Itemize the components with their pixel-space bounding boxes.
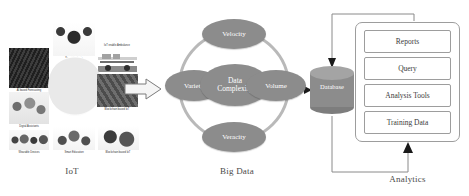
- analytics-item-training-data[interactable]: Training Data: [364, 111, 451, 134]
- digital-assistants-image: [9, 92, 49, 124]
- ai-forecasting-image: [9, 48, 49, 88]
- section-label-bigdata: Big Data: [178, 166, 296, 176]
- iot-image-cluster: AI based Forecasting Smart Gadgets IoT e…: [8, 16, 136, 158]
- iot-tile-caption: Blockchain based IoT: [105, 108, 130, 111]
- iot-tile-smart-education: Smart Education: [52, 126, 96, 154]
- drone-image: [53, 22, 95, 56]
- globe-image: [48, 56, 102, 116]
- iot-tile-caption: Blockchain based IoT: [106, 151, 131, 154]
- cylinder-top: [310, 66, 354, 80]
- analytics-item-analysis-tools[interactable]: Analysis Tools: [364, 84, 451, 107]
- iot-tile-smart-logistics: Blockchain based IoT: [97, 126, 139, 154]
- iot-tile-globe-connectivity: [48, 56, 102, 116]
- iot-tile-iot-enable-ambulance: IoT enable Ambulance: [97, 44, 137, 72]
- analytics-item-query[interactable]: Query: [364, 57, 451, 80]
- iot-tile-caption: Digital Assistants: [19, 125, 39, 128]
- bigdata-node-velocity: Velocity: [202, 19, 266, 49]
- bigdata-node-volume: Volume: [246, 70, 306, 101]
- iot-tile-digital-assistants: Digital Assistants: [8, 92, 50, 128]
- analytics-item-reports[interactable]: Reports: [364, 30, 451, 53]
- logistics-image: [98, 126, 139, 150]
- iot-to-bigdata-arrow-icon: [124, 78, 162, 100]
- analytics-panel: Reports Query Analysis Tools Training Da…: [355, 22, 460, 142]
- iot-tile-ai-based-forecasting: AI based Forecasting: [8, 48, 50, 92]
- iot-tile-caption: Smart Education: [64, 151, 83, 154]
- iot-tile-caption: Wearable Devices: [19, 151, 40, 154]
- diagram-canvas: AI based Forecasting Smart Gadgets IoT e…: [0, 0, 469, 196]
- section-label-iot: IoT: [30, 166, 114, 176]
- wearables-image: [9, 130, 49, 150]
- database-cylinder: Database: [310, 66, 354, 114]
- bigdata-group: Velocity Variety Data Complexity Volume …: [164, 18, 310, 160]
- iot-tile-wearable-devices: Wearable Devices: [8, 130, 50, 154]
- section-label-analytics: Analytics: [355, 174, 460, 184]
- smart-education-image: [53, 126, 95, 150]
- bigdata-node-veracity: Veracity: [202, 122, 266, 152]
- iot-tile-smart-gadgets: Smart Gadgets: [52, 22, 96, 60]
- ambulance-image: [98, 48, 137, 72]
- database-label: Database: [310, 83, 354, 90]
